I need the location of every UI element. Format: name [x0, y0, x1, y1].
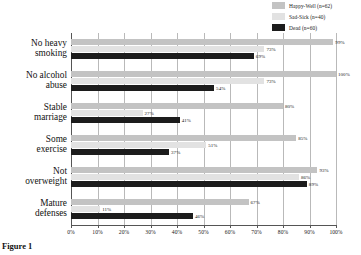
legend-label: Dead (n=60) [289, 25, 317, 31]
bar-value-label: 69% [256, 54, 265, 59]
bar-group: 99%73%69% [71, 33, 336, 65]
bar-value-label: 89% [309, 182, 318, 187]
bar [71, 181, 307, 187]
x-axis-tick-label: 100% [329, 229, 342, 235]
gridline [336, 33, 337, 225]
chart-legend: Happy-Well (n=62)Sad-Sick (n=40)Dead (n=… [272, 1, 361, 34]
x-axis-tick [257, 225, 258, 228]
bar-row: 99% [71, 39, 336, 45]
bar-value-label: 100% [338, 71, 350, 76]
legend-label: Happy-Well (n=62) [289, 3, 332, 9]
x-axis-tick-label: 50% [198, 229, 208, 235]
x-axis-tick-label: 40% [172, 229, 182, 235]
bar-row: 73% [71, 46, 336, 52]
category-label-line: smoking [0, 49, 67, 59]
bar [71, 174, 299, 180]
bar-row: 85% [71, 135, 336, 141]
bar-row: 69% [71, 53, 336, 59]
figure-caption: Figure 1 [2, 241, 32, 251]
legend-item: Happy-Well (n=62) [272, 1, 361, 10]
bar [71, 78, 264, 84]
bar-row: 41% [71, 117, 336, 123]
legend-item: Sad-Sick (n=40) [272, 12, 361, 21]
x-axis-tick [310, 225, 311, 228]
bar [71, 142, 206, 148]
bar-group: 93%86%89% [71, 161, 336, 193]
category-label-line: abuse [0, 81, 67, 91]
bar [71, 149, 169, 155]
x-axis-tick-label: 60% [225, 229, 235, 235]
category-label-line: defenses [0, 209, 67, 219]
bar [71, 85, 214, 91]
bar-row: 67% [71, 199, 336, 205]
bar-row: 46% [71, 213, 336, 219]
bar-value-label: 51% [208, 142, 217, 147]
bar-value-label: 11% [102, 206, 111, 211]
bar [71, 206, 100, 212]
bar [71, 46, 264, 52]
legend-item: Dead (n=60) [272, 23, 361, 32]
bar-row: 86% [71, 174, 336, 180]
category-label: Stablemarriage [0, 103, 67, 122]
bar-value-label: 41% [182, 118, 191, 123]
x-axis-tick-label: 10% [92, 229, 102, 235]
bar [71, 117, 180, 123]
bar-group: 85%51%37% [71, 129, 336, 161]
category-label: Maturedefenses [0, 199, 67, 218]
x-axis-tick [98, 225, 99, 228]
x-axis-tick-label: 80% [278, 229, 288, 235]
category-label: Notoverweight [0, 167, 67, 186]
x-axis-tick-label: 90% [304, 229, 314, 235]
x-axis-tick [336, 225, 337, 228]
legend-swatch [272, 13, 285, 20]
x-axis-tick [71, 225, 72, 228]
bar-row: 54% [71, 85, 336, 91]
bar-value-label: 54% [216, 86, 225, 91]
bar-row: 51% [71, 142, 336, 148]
category-label: No heavysmoking [0, 39, 67, 58]
x-axis-tick [151, 225, 152, 228]
category-label-line: exercise [0, 145, 67, 155]
bar-value-label: 67% [251, 199, 260, 204]
bar-row: 93% [71, 167, 336, 173]
category-label-line: overweight [0, 177, 67, 187]
bar-chart: Happy-Well (n=62)Sad-Sick (n=40)Dead (n=… [0, 0, 361, 255]
bar-value-label: 37% [171, 150, 180, 155]
bar-row: 80% [71, 103, 336, 109]
bar [71, 71, 336, 77]
legend-swatch [272, 24, 285, 31]
bar [71, 213, 193, 219]
bar-row: 100% [71, 71, 336, 77]
bar-group: 100%73%54% [71, 65, 336, 97]
bar-value-label: 93% [319, 167, 328, 172]
x-axis-tick-label: 20% [119, 229, 129, 235]
legend-swatch [272, 2, 285, 9]
bar-row: 11% [71, 206, 336, 212]
x-axis-tick [177, 225, 178, 228]
plot-area: 99%73%69%100%73%54%80%27%41%85%51%37%93%… [71, 33, 336, 225]
bar-value-label: 85% [298, 135, 307, 140]
bar-row: 37% [71, 149, 336, 155]
bar-value-label: 80% [285, 103, 294, 108]
bar-group: 67%11%46% [71, 193, 336, 225]
category-label: Someexercise [0, 135, 67, 154]
x-axis-tick-label: 30% [145, 229, 155, 235]
legend-label: Sad-Sick (n=40) [289, 14, 325, 20]
bar-row: 89% [71, 181, 336, 187]
x-axis-tick [230, 225, 231, 228]
bar-value-label: 46% [195, 214, 204, 219]
bar [71, 110, 143, 116]
category-label-line: marriage [0, 113, 67, 123]
x-axis-tick-label: 70% [251, 229, 261, 235]
bar [71, 53, 254, 59]
bar-value-label: 27% [145, 110, 154, 115]
bar [71, 199, 249, 205]
bar [71, 167, 317, 173]
category-label: No alcoholabuse [0, 71, 67, 90]
bar-group: 80%27%41% [71, 97, 336, 129]
x-axis-tick [283, 225, 284, 228]
bar-value-label: 86% [301, 174, 310, 179]
bar-row: 27% [71, 110, 336, 116]
bar-row: 73% [71, 78, 336, 84]
bar-value-label: 73% [266, 46, 275, 51]
